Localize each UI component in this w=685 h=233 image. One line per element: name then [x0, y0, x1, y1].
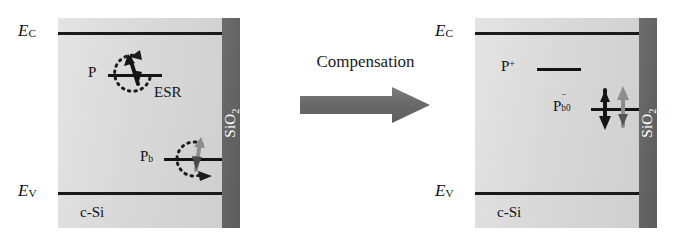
- pb-spin-and-arc: [140, 126, 226, 188]
- valence-band-label-right: EV: [435, 181, 454, 201]
- compensation-arrow-icon: [300, 86, 432, 128]
- pb0-paired-spin-arrows: [553, 86, 645, 134]
- valence-band-edge-left: [58, 192, 222, 195]
- substrate-label-left: c-Si: [80, 204, 104, 221]
- conduction-band-label-left: EC: [18, 21, 36, 41]
- substrate-label-right: c-Si: [497, 204, 521, 221]
- panel-after-compensation: SiO2 EC EV c-Si P+ P−b0b0: [475, 18, 657, 228]
- donor-level-group-left: P ESR: [88, 44, 198, 110]
- band-diagram-figure: SiO2 EC EV c-Si P ESR: [0, 0, 685, 233]
- panel-before-compensation: SiO2 EC EV c-Si P ESR: [58, 18, 240, 228]
- compensation-transition: Compensation: [278, 52, 453, 132]
- valence-band-label-left: EV: [18, 181, 37, 201]
- esr-label: ESR: [154, 84, 182, 101]
- pb0-defect-level-group: P−b0b0: [553, 86, 645, 134]
- valence-band-edge-right: [475, 192, 639, 195]
- conduction-band-edge-left: [58, 32, 222, 35]
- pb0-spin-arrow-down: [599, 90, 611, 130]
- conduction-band-label-right: EC: [435, 21, 453, 41]
- ionized-donor-level-group: P+: [501, 58, 611, 84]
- compensation-label: Compensation: [278, 52, 453, 72]
- ionized-donor-species-label: P+: [501, 58, 515, 75]
- pb-arc-arrowhead: [198, 171, 212, 181]
- conduction-band-edge-right: [475, 32, 639, 35]
- oxide-layer-left: SiO2: [222, 18, 240, 228]
- ionized-donor-energy-level-line: [537, 68, 581, 71]
- pb-defect-level-group-left: Pb: [140, 126, 226, 188]
- pb0-spin-arrow-up: [617, 86, 629, 126]
